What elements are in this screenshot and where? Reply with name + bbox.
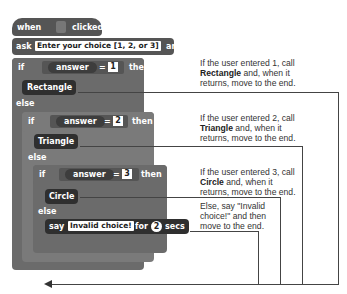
when-label: when [17, 23, 41, 33]
flow-line-say-h [190, 231, 259, 232]
ask-prompt-input[interactable]: Enter your choice [1, 2, or 3] [35, 41, 161, 51]
flow-line-circle-v [280, 197, 281, 284]
flow-line-rectangle-h [78, 92, 339, 93]
ask-label: ask [16, 42, 31, 52]
if-2-label: if [28, 117, 34, 127]
call-circle-block[interactable]: Circle [45, 189, 78, 204]
for-label: for [135, 222, 148, 232]
flow-line-bottom [48, 284, 339, 285]
value-input-2[interactable]: 2 [113, 116, 123, 126]
if-1-label: if [18, 63, 24, 73]
clicked-label: clicked [72, 23, 103, 33]
call-rectangle-block[interactable]: Rectangle [22, 80, 76, 95]
then-label-1: then [129, 63, 150, 73]
say-for-secs-block[interactable]: say Invalid choice! for 2 secs [45, 219, 189, 234]
arrow-left-icon [44, 280, 52, 288]
flow-line-triangle-h [80, 146, 303, 147]
ask-and-wait-block[interactable]: ask Enter your choice [1, 2, or 3] and w… [12, 38, 174, 55]
value-input-3[interactable]: 3 [122, 169, 132, 179]
annotation-4: Else, say "Invalid choice!" and then mov… [200, 201, 278, 231]
equals-op-1: = [99, 63, 106, 73]
if-3-label: if [39, 170, 45, 180]
annotation-1: If the user entered 1, call Rectangle an… [200, 58, 310, 88]
if-3-header: if answer = 3 then [33, 165, 167, 185]
flow-line-triangle-v [302, 146, 303, 284]
annotation-3: If the user entered 3, call Circle and, … [200, 167, 300, 197]
flow-line-rectangle-v [338, 92, 339, 284]
when-flag-clicked-hat[interactable]: when clicked [12, 18, 102, 36]
secs-value-input[interactable]: 2 [151, 221, 162, 232]
then-label-3: then [141, 170, 162, 180]
equals-op-2: = [104, 117, 111, 127]
flow-line-say-v [258, 231, 259, 284]
annotation-2: If the user entered 2, call Triangle and… [200, 113, 310, 143]
call-triangle-block[interactable]: Triangle [34, 134, 78, 149]
if-2-header: if answer = 2 then [22, 112, 154, 132]
triangle-label: Triangle [38, 137, 74, 147]
value-input-1[interactable]: 1 [108, 62, 118, 72]
answer-reporter-2[interactable]: answer [56, 116, 105, 127]
then-label-2: then [132, 117, 153, 127]
flow-line-circle-h [80, 197, 281, 198]
if-1-header: if answer = 1 then [12, 58, 144, 78]
say-label: say [49, 222, 64, 232]
say-message-input[interactable]: Invalid choice! [68, 221, 134, 231]
equals-op-3: = [113, 170, 120, 180]
else-label-1: else [16, 99, 34, 109]
circle-label: Circle [49, 192, 74, 202]
answer-reporter-1[interactable]: answer [48, 62, 97, 73]
green-flag-icon [56, 21, 66, 33]
secs-label: secs [165, 222, 185, 232]
else-label-2: else [28, 153, 46, 163]
answer-reporter-3[interactable]: answer [65, 169, 114, 180]
rectangle-label: Rectangle [27, 83, 72, 93]
else-label-3: else [38, 207, 56, 217]
and-wait-label: and wait [166, 42, 205, 52]
